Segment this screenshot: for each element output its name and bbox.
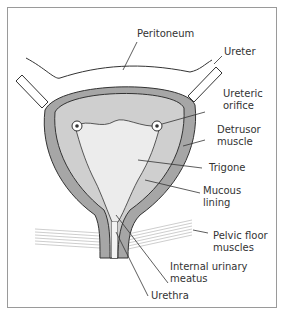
peritoneum: [26, 58, 212, 78]
label-urethra: Urethra: [151, 290, 189, 302]
ureteric-orifice-right: [152, 121, 162, 131]
label-internal-urinary-meatus: Internal urinary meatus: [170, 261, 247, 285]
label-mucous-lining: Mucous lining: [203, 185, 241, 209]
ureteric-orifice-left: [72, 121, 82, 131]
label-pelvic-floor-muscles: Pelvic floor muscles: [213, 230, 268, 254]
label-trigone: Trigone: [209, 162, 245, 174]
urethra: [112, 222, 117, 258]
label-ureter: Ureter: [224, 46, 256, 58]
label-detrusor-muscle: Detrusor muscle: [217, 124, 261, 148]
label-peritoneum: Peritoneum: [137, 28, 194, 40]
label-ureteric-orifice: Ureteric orifice: [223, 88, 263, 112]
